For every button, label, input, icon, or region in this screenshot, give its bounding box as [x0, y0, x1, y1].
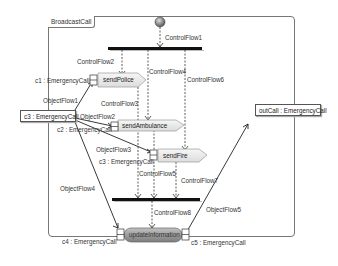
join-bar[interactable]	[112, 198, 202, 202]
c3-input-label: c3 : EmergencyCall	[24, 113, 79, 120]
control-flow-6-label: ControlFlow6	[187, 77, 224, 83]
send-fire-label: sendFire	[163, 152, 188, 159]
object-flow-4	[75, 122, 118, 228]
pin-c4-label: c4 : EmergencyCall	[62, 239, 117, 245]
out-call-object-node[interactable]: outCall : EmergencyCall	[255, 104, 321, 116]
control-flow-4-label: ControlFlow4	[149, 69, 186, 75]
pin-c1-label: c1 : EmergencyCall	[35, 78, 90, 84]
object-flow-5-label: ObjectFlow5	[206, 207, 241, 213]
pin-c3-label: c3 : EmergencyCall	[99, 159, 154, 165]
send-police-label: sendPolice	[103, 76, 134, 83]
control-flow-1-label: ControlFlow1	[165, 35, 202, 41]
control-flow-5-label: ControlFlow5	[139, 171, 176, 177]
pin-c5-label: c5 : EmergencyCall	[191, 240, 246, 246]
object-flow-3-label: ObjectFlow3	[96, 147, 131, 153]
c3-input-object-node[interactable]: c3 : EmergencyCall	[20, 110, 76, 122]
object-flow-1	[75, 82, 92, 110]
object-flow-4-label: ObjectFlow4	[60, 186, 95, 192]
object-flow-1-label: ObjectFlow1	[43, 98, 78, 104]
send-ambulance-label: sendAmbulance	[122, 122, 167, 129]
pin-c2-label: c2 : EmergencyCall	[57, 127, 112, 133]
update-information-label: updateInformation	[129, 231, 180, 238]
control-flow-2-label: ControlFlow2	[77, 59, 114, 65]
control-flow-8-label: ControlFlow8	[154, 210, 191, 216]
initial-node[interactable]	[155, 17, 165, 27]
control-flow-7-label: ControlFlow7	[181, 178, 218, 184]
control-flow-3-label: ControlFlow3	[101, 101, 138, 107]
out-call-label: outCall : EmergencyCall	[259, 107, 327, 114]
activity-diagram: BroadcastCall	[0, 0, 338, 266]
object-flow-2-label: ObjectFlow2	[80, 114, 115, 120]
